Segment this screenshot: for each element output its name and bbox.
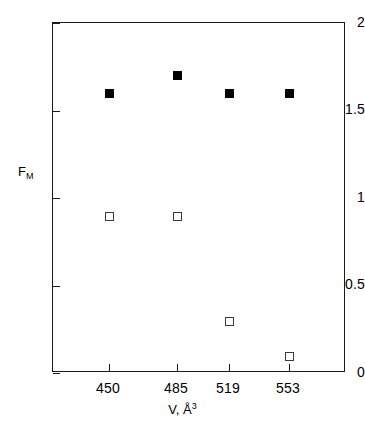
y-tick-mark-0 — [53, 373, 60, 374]
x-tick-mark-553 — [289, 364, 290, 371]
x-tick-mark-519 — [229, 364, 230, 371]
x-axis-title-exponent: 3 — [192, 401, 197, 411]
y-axis-title-subscript: M — [26, 171, 34, 181]
x-tick-mark-450 — [109, 364, 110, 371]
x-axis-title: V, Å3 — [0, 399, 365, 417]
angstrom-symbol: Å — [183, 402, 192, 417]
data-point-open-553 — [285, 352, 294, 361]
y-tick-mark-0-5 — [53, 286, 60, 287]
scatter-chart-figure: FM 2 1.5 1 0.5 0 450 485 519 553 V, Å3 — [0, 0, 365, 433]
y-axis-title: FM — [18, 165, 34, 183]
plot-area — [52, 22, 345, 372]
y-tick-mark-2 — [53, 23, 60, 24]
data-point-open-485 — [173, 212, 182, 221]
y-tick-mark-1 — [53, 198, 60, 199]
data-point-open-519 — [225, 317, 234, 326]
x-tick-mark-485 — [177, 364, 178, 371]
data-point-open-450 — [105, 212, 114, 221]
data-point-filled-553 — [285, 89, 294, 98]
data-point-filled-485 — [173, 71, 182, 80]
y-tick-mark-1-5 — [53, 111, 60, 112]
x-axis-title-prefix: V, — [168, 402, 183, 417]
data-point-filled-519 — [225, 89, 234, 98]
x-tick-label-553: 553 — [258, 381, 318, 395]
y-axis-title-base: F — [18, 164, 26, 179]
x-tick-label-450: 450 — [78, 381, 138, 395]
x-tick-label-485: 485 — [146, 381, 206, 395]
x-tick-label-519: 519 — [198, 381, 258, 395]
data-point-filled-450 — [105, 89, 114, 98]
